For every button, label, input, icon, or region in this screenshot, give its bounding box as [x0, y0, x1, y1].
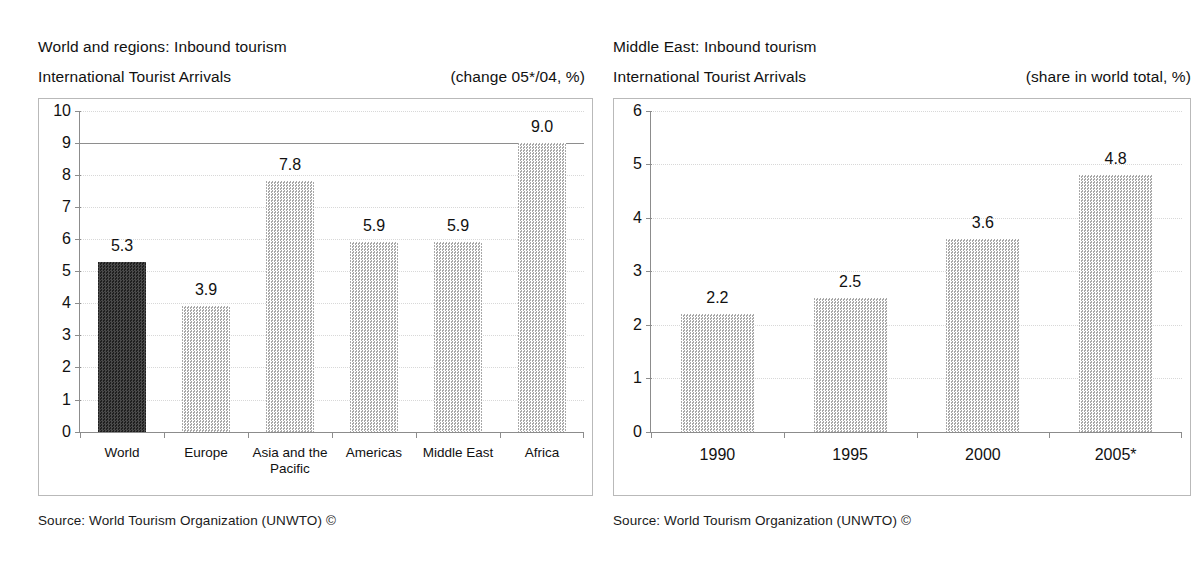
bar-value-label: 4.8: [1105, 150, 1127, 168]
bar-value-label: 7.8: [279, 156, 301, 174]
x-axis-categories: 1990199520002005*: [651, 432, 1182, 465]
bar[interactable]: 2.5: [814, 298, 887, 432]
y-axis-label: 4: [633, 209, 642, 227]
chart-subheading-row: International Tourist Arrivals (change 0…: [38, 68, 585, 86]
y-axis-label: 8: [62, 166, 71, 184]
y-axis-label: 1: [633, 369, 642, 387]
x-axis-label: 1990: [651, 432, 784, 465]
x-axis-label: Africa: [500, 432, 584, 477]
y-axis-label: 2: [633, 316, 642, 334]
bar-slot: 2.2: [651, 111, 784, 432]
bar[interactable]: 3.6: [946, 239, 1019, 432]
x-axis-categories: WorldEuropeAsia and thePacificAmericasMi…: [80, 432, 584, 477]
x-axis-label: Europe: [164, 432, 248, 477]
chart-frame-middle-east: 01234562.22.53.64.81990199520002005*: [613, 98, 1191, 496]
bar[interactable]: 5.9: [434, 242, 483, 431]
bar[interactable]: 5.9: [350, 242, 399, 431]
chart-heading-row: World and regions: Inbound tourism: [38, 38, 585, 56]
bar-slot: 3.9: [164, 111, 248, 432]
bar-value-label: 5.9: [447, 217, 469, 235]
chart-subtitle: International Tourist Arrivals: [613, 68, 806, 86]
y-axis-label: 6: [62, 230, 71, 248]
y-axis-label: 5: [633, 155, 642, 173]
chart-subheading-row: International Tourist Arrivals (share in…: [613, 68, 1191, 86]
x-axis-label: 2005*: [1049, 432, 1182, 465]
chart-title: Middle East: Inbound tourism: [613, 38, 817, 56]
chart-unit-note: (change 05*/04, %): [451, 68, 586, 86]
bar-slot: 5.9: [416, 111, 500, 432]
bar-slot: 3.6: [917, 111, 1050, 432]
chart-title: World and regions: Inbound tourism: [38, 38, 287, 56]
bar-value-label: 2.5: [839, 273, 861, 291]
bar-value-label: 9.0: [531, 118, 553, 136]
bar-value-label: 5.9: [363, 217, 385, 235]
bar-value-label: 3.6: [972, 214, 994, 232]
y-axis-label: 7: [62, 198, 71, 216]
x-axis-label: Americas: [332, 432, 416, 477]
y-axis-label: 3: [62, 326, 71, 344]
x-axis-label: World: [80, 432, 164, 477]
bar-value-label: 5.3: [111, 237, 133, 255]
bar[interactable]: 4.8: [1079, 175, 1152, 432]
bar-series: 2.22.53.64.8: [651, 111, 1182, 432]
bar-slot: 5.9: [332, 111, 416, 432]
bar[interactable]: 7.8: [266, 181, 315, 431]
bar-slot: 7.8: [248, 111, 332, 432]
chart-unit-note: (share in world total, %): [1026, 68, 1191, 86]
plot-body: 0123456789105.33.97.85.95.99.0WorldEurop…: [79, 111, 584, 433]
y-axis-label: 3: [633, 262, 642, 280]
bar-value-label: 3.9: [195, 281, 217, 299]
y-axis-label: 0: [62, 423, 71, 441]
bar[interactable]: 2.2: [681, 314, 754, 432]
bar-slot: 2.5: [784, 111, 917, 432]
bar-value-label: 2.2: [706, 289, 728, 307]
bar-series: 5.33.97.85.95.99.0: [80, 111, 584, 432]
bar-slot: 5.3: [80, 111, 164, 432]
x-axis-label: Asia and thePacific: [248, 432, 332, 477]
chart-subtitle: International Tourist Arrivals: [38, 68, 231, 86]
chart-panel-middle-east: Middle East: Inbound tourism Internation…: [600, 0, 1193, 570]
plot-body: 01234562.22.53.64.81990199520002005*: [650, 111, 1182, 433]
y-axis-label: 2: [62, 358, 71, 376]
source-note: Source: World Tourism Organization (UNWT…: [38, 513, 600, 528]
x-axis-label: Middle East: [416, 432, 500, 477]
bar-slot: 9.0: [500, 111, 584, 432]
y-axis-label: 4: [62, 294, 71, 312]
bar-slot: 4.8: [1049, 111, 1182, 432]
y-axis-label: 0: [633, 423, 642, 441]
chart-heading-row: Middle East: Inbound tourism: [613, 38, 1191, 56]
bar[interactable]: 9.0: [518, 143, 567, 432]
source-note: Source: World Tourism Organization (UNWT…: [613, 513, 1193, 528]
chart-page: World and regions: Inbound tourism Inter…: [0, 0, 1193, 570]
y-axis-label: 5: [62, 262, 71, 280]
x-axis-label: 2000: [917, 432, 1050, 465]
x-axis-label: 1995: [784, 432, 917, 465]
plot-area-world: 0123456789105.33.97.85.95.99.0WorldEurop…: [79, 111, 584, 433]
bar[interactable]: 5.3: [98, 262, 147, 432]
y-axis-label: 1: [62, 391, 71, 409]
chart-panel-world: World and regions: Inbound tourism Inter…: [0, 0, 600, 570]
plot-area-middle-east: 01234562.22.53.64.81990199520002005*: [650, 111, 1182, 433]
chart-frame-world: 0123456789105.33.97.85.95.99.0WorldEurop…: [38, 98, 593, 496]
bar[interactable]: 3.9: [182, 306, 231, 431]
y-axis-label: 6: [633, 102, 642, 120]
y-axis-label: 10: [53, 102, 71, 120]
y-axis-label: 9: [62, 134, 71, 152]
